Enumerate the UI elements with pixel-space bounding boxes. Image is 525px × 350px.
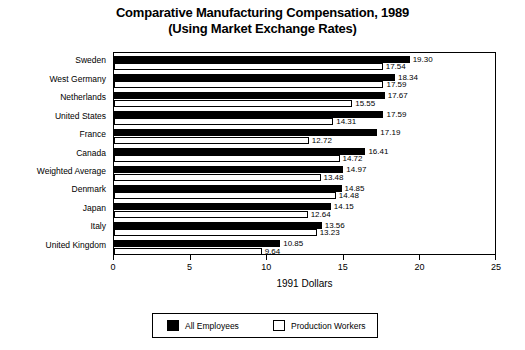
- bar-production-workers: [114, 137, 309, 144]
- legend-label: Production Workers: [291, 321, 365, 331]
- x-tick-label: 5: [175, 262, 205, 272]
- bar-value-label: 17.59: [386, 111, 406, 119]
- bar-value-label: 16.41: [368, 148, 388, 156]
- x-tick: [495, 255, 496, 260]
- bar-value-label: 14.97: [346, 166, 366, 174]
- y-axis-label-canada: Canada: [76, 149, 106, 158]
- bar-group: 19.3017.54: [114, 53, 495, 71]
- y-axis-label-united-kingdom: United Kingdom: [46, 241, 106, 250]
- bar-all-employees: [114, 148, 365, 155]
- bar-all-employees: [114, 92, 385, 99]
- x-tick: [419, 255, 420, 260]
- x-tick: [266, 255, 267, 260]
- legend-item-all-employees[interactable]: All Employees: [167, 320, 239, 331]
- x-axis-tick-labels: 0510152025: [0, 262, 525, 274]
- y-axis-label-denmark: Denmark: [72, 185, 106, 194]
- y-axis-label-netherlands: Netherlands: [60, 93, 106, 102]
- bar-production-workers: [114, 155, 340, 162]
- y-axis-label-france: France: [80, 130, 106, 139]
- bar-production-workers: [114, 174, 321, 181]
- y-axis-label-japan: Japan: [83, 204, 106, 213]
- bar-value-label: 17.59: [386, 81, 406, 89]
- chart-figure: Comparative Manufacturing Compensation, …: [0, 0, 525, 350]
- bar-group: 14.8514.48: [114, 182, 495, 200]
- bar-all-employees: [114, 222, 322, 229]
- x-tick-label: 20: [404, 262, 434, 272]
- y-axis-label-united-states: United States: [55, 112, 106, 121]
- plot-area: 19.3017.5418.3417.5917.6715.5517.5914.31…: [113, 52, 496, 255]
- x-axis-ticks: [113, 255, 496, 261]
- bar-production-workers: [114, 192, 336, 199]
- bar-value-label: 17.19: [380, 129, 400, 137]
- bar-all-employees: [114, 185, 342, 192]
- chart-legend: All EmployeesProduction Workers: [152, 313, 378, 338]
- legend-swatch-icon: [273, 320, 285, 331]
- bar-all-employees: [114, 166, 343, 173]
- bar-production-workers: [114, 248, 262, 255]
- y-axis-label-sweden: Sweden: [75, 56, 106, 65]
- legend-label: All Employees: [185, 321, 239, 331]
- bar-production-workers: [114, 229, 317, 236]
- bar-value-label: 13.23: [320, 229, 340, 237]
- bars-container: 19.3017.5418.3417.5917.6715.5517.5914.31…: [114, 53, 495, 254]
- bar-value-label: 12.64: [311, 211, 331, 219]
- y-axis-label-italy: Italy: [90, 222, 106, 231]
- bar-all-employees: [114, 203, 331, 210]
- bar-group: 17.6715.55: [114, 90, 495, 108]
- bar-value-label: 14.48: [339, 192, 359, 200]
- bar-value-label: 14.72: [343, 155, 363, 163]
- bar-value-label: 14.31: [336, 118, 356, 126]
- x-tick-label: 25: [481, 262, 511, 272]
- chart-title: Comparative Manufacturing Compensation, …: [0, 5, 525, 37]
- x-tick: [343, 255, 344, 260]
- y-axis-label-weighted-average: Weighted Average: [37, 167, 106, 176]
- y-axis-label-west-germany: West Germany: [49, 75, 106, 84]
- chart-title-line-1: Comparative Manufacturing Compensation, …: [0, 5, 525, 21]
- bar-group: 10.859.64: [114, 238, 495, 256]
- bar-value-label: 12.72: [312, 137, 332, 145]
- bar-group: 17.1912.72: [114, 127, 495, 145]
- bar-group: 14.9713.48: [114, 164, 495, 182]
- x-axis-title: 1991 Dollars: [113, 278, 496, 289]
- bar-group: 13.5613.23: [114, 219, 495, 237]
- x-tick-label: 10: [251, 262, 281, 272]
- bar-all-employees: [114, 56, 410, 63]
- y-axis-category-labels: SwedenWest GermanyNetherlandsUnited Stat…: [0, 52, 110, 255]
- bar-value-label: 17.54: [386, 63, 406, 71]
- bar-value-label: 15.55: [355, 100, 375, 108]
- bar-production-workers: [114, 211, 308, 218]
- bar-group: 17.5914.31: [114, 108, 495, 126]
- chart-title-line-2: (Using Market Exchange Rates): [0, 21, 525, 37]
- bar-group: 14.1512.64: [114, 201, 495, 219]
- bar-all-employees: [114, 240, 280, 247]
- bar-value-label: 13.48: [324, 174, 344, 182]
- bar-group: 16.4114.72: [114, 145, 495, 163]
- bar-production-workers: [114, 81, 383, 88]
- bar-value-label: 19.30: [413, 56, 433, 64]
- legend-item-production-workers[interactable]: Production Workers: [273, 320, 365, 331]
- x-tick: [190, 255, 191, 260]
- bar-value-label: 14.15: [334, 203, 354, 211]
- bar-all-employees: [114, 74, 395, 81]
- bar-value-label: 10.85: [283, 240, 303, 248]
- bar-production-workers: [114, 118, 333, 125]
- x-tick-label: 0: [98, 262, 128, 272]
- bar-all-employees: [114, 129, 377, 136]
- bar-production-workers: [114, 100, 352, 107]
- bar-production-workers: [114, 63, 383, 70]
- bar-value-label: 17.67: [388, 92, 408, 100]
- legend-swatch-icon: [167, 320, 179, 331]
- x-tick-label: 15: [328, 262, 358, 272]
- x-tick: [113, 255, 114, 260]
- bar-group: 18.3417.59: [114, 71, 495, 89]
